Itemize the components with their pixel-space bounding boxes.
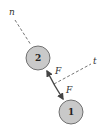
ball-1-label: 1 [68, 107, 74, 117]
force-label-lower: F [65, 85, 73, 95]
force-arrow-on-ball-1 [55, 86, 63, 99]
ball-2-label: 2 [35, 53, 41, 63]
tangent-axis-label: t [93, 56, 97, 66]
force-arrow-on-ball-2 [47, 71, 55, 86]
normal-axis-line [15, 20, 31, 45]
normal-axis-label: n [9, 7, 15, 17]
force-label-upper: F [54, 66, 62, 76]
collision-diagram: n t 2 1 F F [0, 0, 100, 127]
